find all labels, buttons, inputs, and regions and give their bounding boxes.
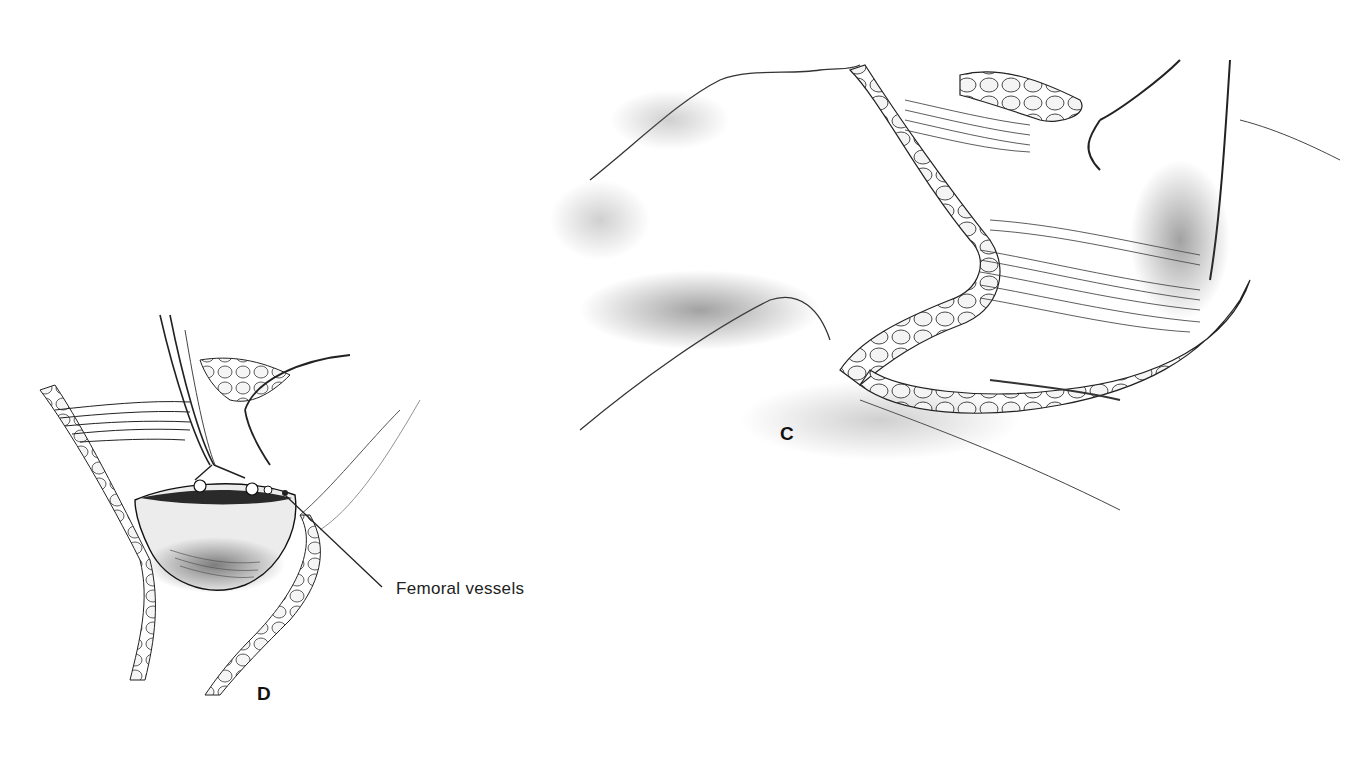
- panel-c-label: C: [780, 423, 794, 445]
- panel-c: C: [560, 40, 1350, 530]
- panel-c-illustration: [560, 40, 1350, 530]
- callout-femoral-vessels: Femoral vessels: [396, 579, 524, 599]
- panel-d: D: [0, 300, 460, 720]
- panel-d-illustration: [0, 300, 460, 720]
- panel-d-label: D: [257, 683, 271, 705]
